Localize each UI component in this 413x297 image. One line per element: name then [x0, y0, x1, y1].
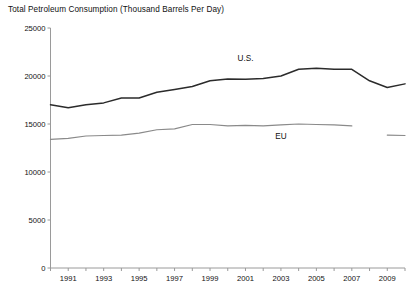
chart-plot-area: [0, 0, 413, 297]
series-label-eu: EU: [275, 132, 286, 141]
x-tick-label: 1997: [160, 274, 190, 283]
x-tick-label: 1991: [53, 274, 83, 283]
chart-title: Total Petroleum Consumption (Thousand Ba…: [8, 5, 224, 14]
y-tick-label: 5000: [8, 216, 46, 225]
y-tick-label: 25000: [8, 24, 46, 33]
y-tick-label: 10000: [8, 168, 46, 177]
series-line-u-s-: [51, 68, 406, 107]
chart-container: Total Petroleum Consumption (Thousand Ba…: [0, 0, 413, 297]
x-tick-label: 1993: [89, 274, 119, 283]
x-tick-label: 2005: [301, 274, 331, 283]
series-label-u-s-: U.S.: [238, 53, 254, 62]
x-tick-label: 2009: [372, 274, 402, 283]
x-tick-label: 2007: [337, 274, 367, 283]
y-tick-label: 20000: [8, 72, 46, 81]
x-tick-label: 1999: [195, 274, 225, 283]
series-line-eu: [51, 124, 352, 139]
x-tick-label: 1995: [124, 274, 154, 283]
y-tick-label: 0: [8, 264, 46, 273]
x-tick-label: 2001: [230, 274, 260, 283]
y-tick-label: 15000: [8, 120, 46, 129]
x-tick-label: 2003: [266, 274, 296, 283]
